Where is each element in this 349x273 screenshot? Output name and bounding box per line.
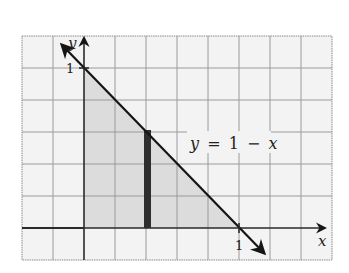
- vertical-strip: [144, 130, 151, 228]
- equation-label: y = 1 − x: [187, 131, 277, 153]
- y-axis-label: y: [67, 34, 77, 52]
- x-axis-label: x: [318, 232, 327, 250]
- y-tick-label: 1: [66, 61, 74, 76]
- x-tick-label: 1: [235, 238, 243, 253]
- coordinate-diagram: y x 1 1 y = 1 − x: [0, 0, 349, 273]
- svg-text:y = 1 −: y = 1 − x: [189, 134, 277, 153]
